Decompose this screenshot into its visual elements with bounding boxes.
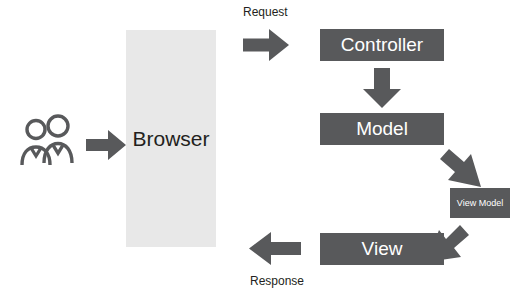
request-label: Request [243, 5, 288, 19]
arrow-model-to-view-model [437, 147, 483, 189]
model-label: Model [356, 118, 408, 140]
controller-label: Controller [341, 34, 423, 56]
arrow-controller-to-model [363, 68, 401, 108]
browser-label: Browser [132, 127, 209, 151]
model-box: Model [320, 113, 444, 145]
users-icon [16, 113, 82, 167]
view-model-label: View Model [457, 198, 503, 208]
diagram-canvas: Browser Request Controller Model View Mo… [0, 0, 532, 305]
arrow-view-to-browser [249, 232, 301, 265]
browser-box: Browser [126, 30, 216, 247]
response-label: Response [250, 274, 304, 288]
controller-box: Controller [320, 29, 444, 61]
arrow-browser-to-controller [243, 29, 289, 61]
view-box: View [320, 233, 444, 265]
view-label: View [362, 238, 403, 260]
arrow-users-to-browser [86, 130, 126, 160]
view-model-box: View Model [450, 188, 510, 218]
